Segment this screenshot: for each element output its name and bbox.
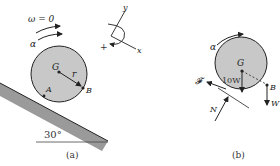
y-axis-label: y [122,3,128,12]
coordinate-axes: y x + [100,3,142,55]
contact-label-a: A [45,85,52,94]
figure-a: 30° G r B A ω = 0 α y x + (a) [0,3,142,160]
positive-sign-label: + [100,42,108,52]
point-b [81,86,84,89]
figure-b: α G 10W B W 𝓕 N (b) [195,34,280,160]
alpha-label-b: α [210,42,216,52]
point-b-label-b: B [269,83,276,92]
x-axis-label: x [137,46,142,55]
center-label-g: G [52,62,59,72]
friction-label: 𝓕 [195,76,205,86]
caption-b: (b) [232,150,245,160]
caption-a: (a) [66,150,78,160]
center-label-g-b: G [237,58,244,68]
diagram-canvas: 30° G r B A ω = 0 α y x + (a) α G [0,0,280,166]
point-b-label: B [85,86,92,95]
alpha-label: α [30,39,36,49]
point-weight-label: W [271,99,280,108]
disk-weight-label: 10W [222,76,241,85]
omega-arrow-icon [36,26,60,33]
normal-label: N [209,105,218,114]
tangent-line [218,88,249,108]
omega-label: ω = 0 [28,14,55,24]
contact-point-a [43,95,46,98]
alpha-arrow-icon [38,34,62,40]
angle-label: 30° [44,129,62,140]
disk-a [31,46,87,102]
radius-label: r [72,69,77,79]
